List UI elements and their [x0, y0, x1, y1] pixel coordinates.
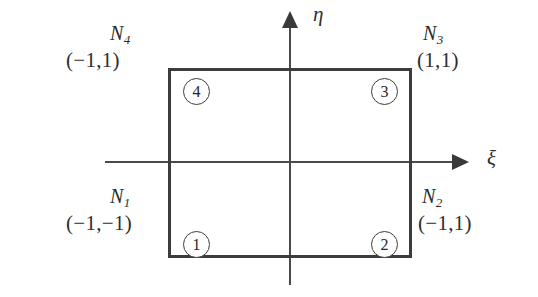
xi-axis-label: ξ [487, 146, 496, 171]
node-coordinates-1: (−1,−1) [66, 211, 132, 236]
shape-function-symbol-1: N [110, 185, 123, 207]
shape-function-label-2: N2 [418, 185, 472, 211]
node-coordinates-3: (1,1) [417, 48, 459, 73]
element-diagram-figure: η ξ 4 3 1 2 N4 (−1,1) N3 (1,1) N1 (−1,−1… [0, 0, 538, 297]
xi-axis-arrowhead-icon [452, 154, 469, 170]
shape-function-label-1: N1 [66, 185, 132, 211]
node-marker-4: 4 [183, 78, 210, 105]
node-label-group-1: N1 (−1,−1) [66, 185, 132, 236]
eta-axis-label: η [313, 2, 323, 27]
node-label-group-2: N2 (−1,1) [418, 185, 472, 236]
shape-function-symbol-2: N [422, 185, 435, 207]
node-coordinates-4: (−1,1) [66, 48, 130, 73]
eta-axis-arrowhead-icon [282, 11, 298, 28]
shape-function-subscript-2: 2 [435, 195, 442, 210]
shape-function-label-4: N4 [66, 22, 130, 48]
node-marker-2: 2 [371, 231, 398, 258]
shape-function-subscript-3: 3 [436, 32, 443, 47]
node-coordinates-2: (−1,1) [418, 211, 472, 236]
shape-function-symbol-3: N [423, 22, 436, 44]
node-label-group-4: N4 (−1,1) [66, 22, 130, 73]
shape-function-symbol-4: N [110, 22, 123, 44]
shape-function-subscript-4: 4 [123, 32, 130, 47]
node-marker-3: 3 [371, 78, 398, 105]
shape-function-label-3: N3 [417, 22, 459, 48]
node-marker-1: 1 [183, 231, 210, 258]
shape-function-subscript-1: 1 [123, 195, 130, 210]
node-label-group-3: N3 (1,1) [417, 22, 459, 73]
